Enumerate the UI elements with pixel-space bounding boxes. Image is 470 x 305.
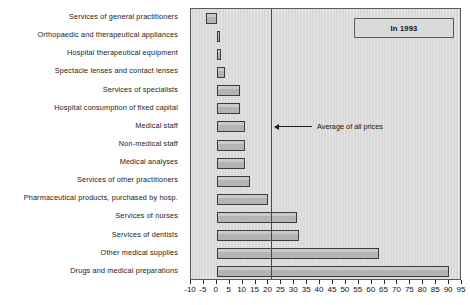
axis-tick-label: 10: [237, 285, 246, 294]
chart-figure: Services of general practitionersOrthopa…: [0, 0, 470, 305]
category-label: Orthopaedic and therapeutical appliances: [0, 26, 184, 44]
axis-tick: [255, 280, 256, 284]
axis-tick: [345, 280, 346, 284]
axis-tick-label: 40: [315, 285, 324, 294]
axis-tick: [267, 280, 268, 284]
category-label: Services of general practitioners: [0, 8, 184, 26]
axis-tick: [422, 280, 423, 284]
axis-tick-label: 60: [366, 285, 375, 294]
category-label: Pharmaceutical products, purchased by ho…: [0, 189, 184, 207]
axis-tick-label: 50: [340, 285, 349, 294]
average-annotation-label: Average of all prices: [317, 122, 383, 131]
axis-tick: [293, 280, 294, 284]
bar: [217, 31, 220, 42]
category-label: Other medical supplies: [0, 244, 184, 262]
average-annotation: Average of all prices: [274, 121, 383, 133]
bar: [217, 212, 297, 223]
category-label: Hospital consumption of fixed capital: [0, 99, 184, 117]
axis-tick-label: 80: [418, 285, 427, 294]
axis-tick: [190, 280, 191, 284]
axis-tick-label: 85: [431, 285, 440, 294]
axis-tick: [435, 280, 436, 284]
bar: [217, 158, 245, 169]
bar: [217, 176, 251, 187]
axis-tick-label: 35: [302, 285, 311, 294]
axis-tick-label: -5: [199, 285, 206, 294]
axis-tick-label: 15: [250, 285, 259, 294]
category-label: Non-medical staff: [0, 135, 184, 153]
axis-tick: [396, 280, 397, 284]
axis-tick-label: 75: [405, 285, 414, 294]
axis-tick-label: 90: [444, 285, 453, 294]
bar: [217, 266, 449, 277]
category-label: Services of other practitioners: [0, 171, 184, 189]
category-label: Medical analyses: [0, 153, 184, 171]
bar: [206, 13, 216, 24]
axis-tick: [319, 280, 320, 284]
category-label: Services of specialists: [0, 81, 184, 99]
axis-tick-label: 5: [226, 285, 230, 294]
axis-tick: [384, 280, 385, 284]
axis-tick: [242, 280, 243, 284]
bar: [217, 230, 300, 241]
average-reference-line: [271, 9, 272, 279]
axis-tick-label: 65: [379, 285, 388, 294]
axis-tick-label: 55: [353, 285, 362, 294]
legend-box: In 1993: [354, 18, 454, 38]
axis-tick: [448, 280, 449, 284]
axis-tick: [461, 280, 462, 284]
axis-tick-label: 25: [276, 285, 285, 294]
plot-area: Average of all prices In 1993: [190, 8, 461, 280]
bar: [217, 248, 380, 259]
category-label: Services of dentists: [0, 226, 184, 244]
category-label: Spectacle lenses and contact lenses: [0, 62, 184, 80]
arrow-shaft: [279, 126, 312, 127]
bar: [217, 194, 269, 205]
axis-tick: [371, 280, 372, 284]
legend-label: In 1993: [391, 24, 418, 33]
category-label: Hospital therapeutical equipment: [0, 44, 184, 62]
axis-tick-label: 20: [263, 285, 272, 294]
bar: [217, 103, 240, 114]
bar-series: [191, 9, 460, 279]
axis-tick: [306, 280, 307, 284]
axis-tick-label: 45: [327, 285, 336, 294]
axis-tick: [409, 280, 410, 284]
axis-tick-label: 0: [214, 285, 218, 294]
value-axis: -10-505101520253035404550556065707580859…: [190, 280, 461, 305]
bar: [217, 140, 245, 151]
axis-tick-label: 30: [289, 285, 298, 294]
axis-tick: [280, 280, 281, 284]
category-label: Drugs and medical preparations: [0, 262, 184, 280]
axis-tick: [216, 280, 217, 284]
axis-tick: [358, 280, 359, 284]
axis-tick-label: -10: [184, 285, 196, 294]
bar: [217, 67, 225, 78]
category-axis-labels: Services of general practitionersOrthopa…: [0, 8, 184, 280]
axis-tick-label: 70: [392, 285, 401, 294]
axis-tick-label: 95: [457, 285, 466, 294]
category-label: Medical staff: [0, 117, 184, 135]
axis-tick: [203, 280, 204, 284]
category-label: Services of nurses: [0, 207, 184, 225]
bar: [217, 85, 240, 96]
axis-tick: [332, 280, 333, 284]
bar: [217, 121, 245, 132]
axis-tick: [229, 280, 230, 284]
bar: [217, 49, 221, 60]
